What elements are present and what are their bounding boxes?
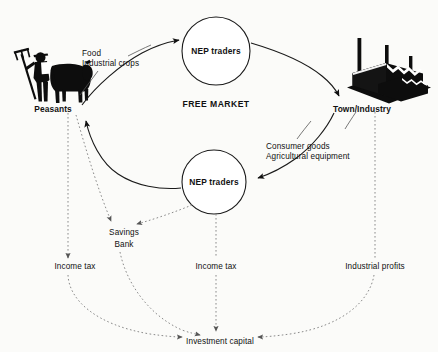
leader-town-curve: [345, 112, 356, 129]
node-label-savings-bank-line1: Savings: [109, 228, 139, 239]
center-label-free-market: FREE MARKET: [182, 99, 249, 110]
dotted-industrial-profits-to-investment: [258, 275, 374, 337]
node-label-nep-traders-top: NEP traders: [191, 46, 240, 57]
dotted-traders-to-savings-bank: [137, 205, 192, 224]
node-label-savings-bank-line2: Bank: [114, 240, 133, 251]
flow-bottom-traders-to-peasants: [86, 121, 181, 188]
flow-label-agricultural-equipment: Agricultural equipment: [266, 152, 350, 163]
node-label-town-industry: Town/Industry: [333, 104, 391, 115]
flow-label-food: Food: [82, 49, 101, 60]
flow-top-traders-to-town: [251, 43, 339, 96]
node-label-peasants: Peasants: [34, 104, 72, 115]
factory-with-smokestacks-icon: [347, 38, 431, 104]
flow-label-industrial-profits: Industrial profits: [342, 262, 408, 273]
peasant-with-pitchfork-and-ox-icon: [14, 48, 93, 103]
flow-label-consumer-goods: Consumer goods: [266, 142, 330, 153]
node-label-nep-traders-bottom: NEP traders: [189, 177, 238, 188]
node-label-investment-capital: Investment capital: [186, 337, 254, 348]
nep-free-market-diagram: Peasants Town/Industry NEP traders NEP t…: [0, 0, 438, 352]
leader-consumer-goods: [297, 121, 311, 139]
flow-label-income-tax-left: Income tax: [54, 262, 95, 273]
dotted-income-tax-left-to-investment: [68, 275, 182, 337]
flow-label-industrial-crops: Industrial crops: [82, 59, 139, 70]
dotted-savings-bank-to-investment: [120, 252, 200, 335]
flow-label-income-tax-center: Income tax: [192, 262, 239, 273]
dotted-peasants-to-savings-bank: [76, 115, 111, 221]
